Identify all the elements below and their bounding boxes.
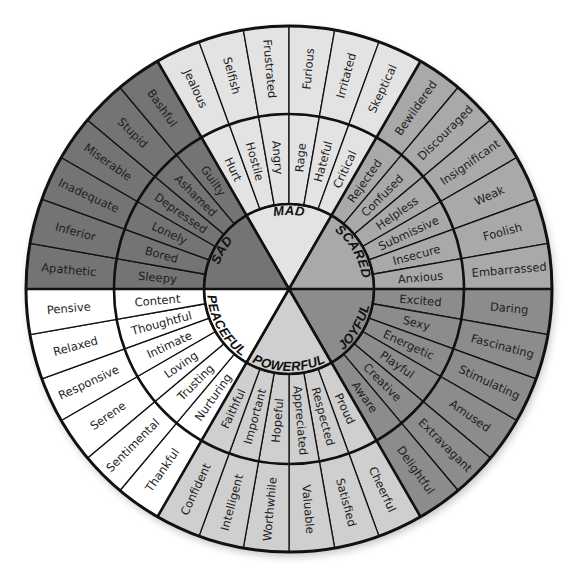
feelings-wheel: HurtHostileAngryRageHatefulCriticalJealo… — [0, 0, 574, 570]
wheel-segments — [26, 26, 552, 552]
middle-word-rage: Rage — [292, 142, 308, 172]
core-label-mad: MAD — [272, 203, 306, 220]
middle-word-angry: Angry — [269, 140, 286, 175]
